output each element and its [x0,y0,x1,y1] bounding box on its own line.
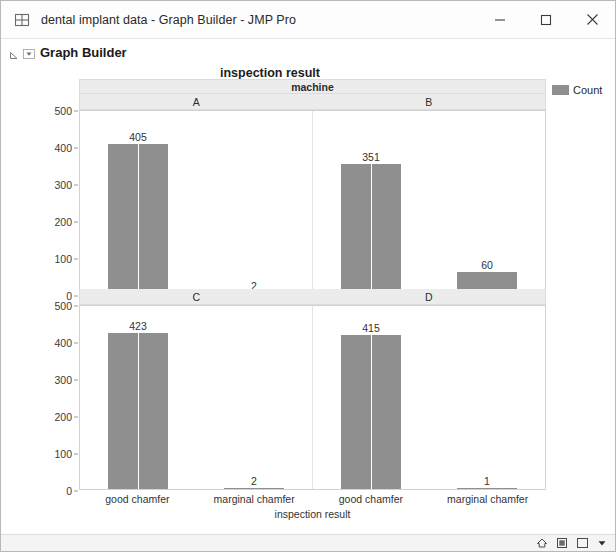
window-controls [477,1,615,38]
panel-plot-area: 4151 [313,306,545,489]
bar-value-label: 423 [129,320,147,332]
panel-header-band: CD [79,289,546,305]
y-axis-tick-mark [74,417,78,418]
plot-matrix: machine AB5004003002001000405235160CD500… [79,79,546,504]
y-axis-tick-label: 100 [54,448,72,460]
x-axis-tick-label: good chamfer [313,491,430,507]
y-axis-tick-label: 300 [54,179,72,191]
y-axis-tick-mark [74,343,78,344]
bar-slot: 1 [429,306,545,489]
data-table-grid-icon [14,12,30,28]
bar-value-label: 405 [129,131,147,143]
report-outline-header: Graph Builder [1,39,615,65]
y-axis-tick-label: 400 [54,337,72,349]
dropdown-triangle-icon[interactable] [595,537,609,550]
journal-icon[interactable] [555,537,569,550]
graph-builder-chart: inspection result Count machine AB500400… [1,65,616,535]
close-button[interactable] [569,1,615,38]
panel-plot-area: 4052 [80,111,312,294]
bar-value-label: 60 [481,259,493,271]
x-axis-tick-label: marginal chamfer [196,491,313,507]
red-triangle-menu-icon[interactable] [23,46,35,58]
panel-label-d: D [313,289,546,304]
y-axis: 5004003002001000 [38,306,78,491]
chart-title: inspection result [0,66,616,80]
panel-header-band: AB [79,94,546,110]
y-axis: 5004003002001000 [38,111,78,296]
bar-slot: 2 [196,306,312,489]
panel-plot-area: 4232 [80,306,312,489]
y-axis-tick-mark [74,296,78,297]
panel-label-a: A [80,94,313,109]
panel-row: 5004003002001000405235160 [79,110,546,295]
panel-row: 500400300200100042324151 [79,305,546,490]
maximize-button[interactable] [523,1,569,38]
panel-a: 4052 [80,111,312,294]
legend-swatch-count [552,85,569,95]
y-axis-tick-mark [74,222,78,223]
bar[interactable]: 415 [341,335,401,489]
bar-value-label: 415 [362,322,380,334]
disclosure-triangle-icon[interactable] [9,47,20,58]
y-axis-tick-mark [74,491,78,492]
y-axis-tick-mark [74,306,78,307]
y-axis-tick-label: 300 [54,374,72,386]
group-band-label: machine [291,81,334,93]
page-title: Graph Builder [40,45,127,60]
bar-value-label: 1 [484,475,490,487]
bar[interactable]: 351 [341,164,401,294]
home-icon[interactable] [535,537,549,550]
graph-builder-window: dental implant data - Graph Builder - JM… [0,0,616,552]
status-bar [1,534,615,551]
x-axis-tick-label: good chamfer [79,491,196,507]
y-axis-tick-label: 400 [54,142,72,154]
y-axis-tick-mark [74,111,78,112]
group-band-machine: machine [79,79,546,94]
y-axis-tick-label: 500 [54,300,72,312]
window-title: dental implant data - Graph Builder - JM… [41,13,296,27]
panel-d: 4151 [312,306,545,489]
bar-slot: 2 [196,111,312,294]
bar-slot: 351 [313,111,429,294]
legend-label-count: Count [573,84,602,96]
panel-label-b: B [313,94,546,109]
bar-slot: 405 [80,111,196,294]
y-axis-tick-mark [74,185,78,186]
bar[interactable]: 405 [108,144,168,294]
chart-legend: Count [552,84,602,96]
x-axis-labels: good chamfermarginal chamfergood chamfer… [79,491,546,507]
bar[interactable]: 2 [224,488,284,489]
bar[interactable]: 423 [108,333,168,490]
x-axis-tick-label: marginal chamfer [429,491,546,507]
y-axis-tick-label: 100 [54,253,72,265]
bar-value-label: 2 [251,475,257,487]
bar-value-label: 351 [362,151,380,163]
y-axis-tick-mark [74,259,78,260]
title-bar: dental implant data - Graph Builder - JM… [1,1,615,39]
bar-slot: 423 [80,306,196,489]
panel-b: 35160 [312,111,545,294]
y-axis-tick-label: 500 [54,105,72,117]
bar-slot: 415 [313,306,429,489]
bar-slot: 60 [429,111,545,294]
panel-plot-area: 35160 [313,111,545,294]
panel-c: 4232 [80,306,312,489]
minimize-button[interactable] [477,1,523,38]
y-axis-tick-label: 200 [54,411,72,423]
y-axis-tick-label: 0 [66,485,72,497]
bar[interactable]: 1 [457,488,517,489]
y-axis-tick-mark [74,148,78,149]
x-axis-title: inspection result [79,508,546,520]
y-axis-tick-label: 200 [54,216,72,228]
y-axis-tick-mark [74,380,78,381]
panel-label-c: C [80,289,313,304]
y-axis-tick-mark [74,454,78,455]
window-icon[interactable] [575,537,589,550]
